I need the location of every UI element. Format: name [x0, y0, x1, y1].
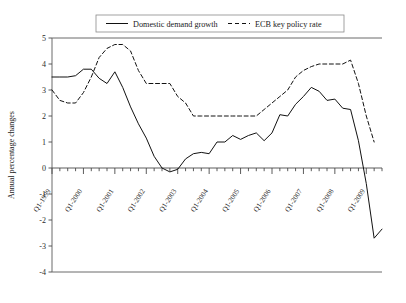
- line-chart: 543210-1-2-3-4Q1-1999Q1-2000Q1-2001Q1-20…: [0, 0, 406, 303]
- x-tick-label: Q1-2002: [126, 187, 147, 213]
- legend-label-1: Domestic demand growth: [133, 20, 218, 29]
- y-tick-label: -4: [39, 268, 46, 277]
- y-tick-label: 0: [42, 164, 46, 173]
- x-tick-label: Q1-1999: [32, 187, 53, 213]
- x-tick-label: Q1-2006: [252, 187, 273, 213]
- y-tick-label: 3: [42, 86, 46, 95]
- x-tick-label: Q1-2000: [63, 187, 84, 213]
- series-line-2: [52, 45, 374, 143]
- x-tick-label: Q1-2007: [283, 187, 304, 213]
- x-tick-labels: Q1-1999Q1-2000Q1-2001Q1-2002Q1-2003Q1-20…: [32, 187, 367, 213]
- legend-label-2: ECB key policy rate: [255, 20, 322, 29]
- y-tick-label: 1: [42, 138, 46, 147]
- y-tick-label: -3: [39, 242, 46, 251]
- chart-figure: 543210-1-2-3-4Q1-1999Q1-2000Q1-2001Q1-20…: [0, 0, 406, 303]
- x-axis: [52, 168, 382, 174]
- y-tick-label: 2: [42, 112, 46, 121]
- x-tick-label: Q1-2008: [315, 187, 336, 213]
- y-tick-label: 5: [42, 34, 46, 43]
- y-tick-label: -2: [39, 216, 46, 225]
- x-tick-label: Q1-2003: [158, 187, 179, 213]
- y-axis: 543210-1-2-3-4: [39, 34, 52, 277]
- x-tick-label: Q1-2004: [189, 187, 210, 213]
- plot-frame: [52, 38, 382, 272]
- y-axis-title: Annual percentage changes: [7, 111, 16, 199]
- legend: Domestic demand growthECB key policy rat…: [96, 15, 344, 32]
- x-tick-label: Q1-2005: [221, 187, 242, 213]
- y-tick-label: 4: [42, 60, 46, 69]
- x-tick-label: Q1-2001: [95, 187, 116, 213]
- x-tick-label: Q1-2009: [346, 187, 367, 213]
